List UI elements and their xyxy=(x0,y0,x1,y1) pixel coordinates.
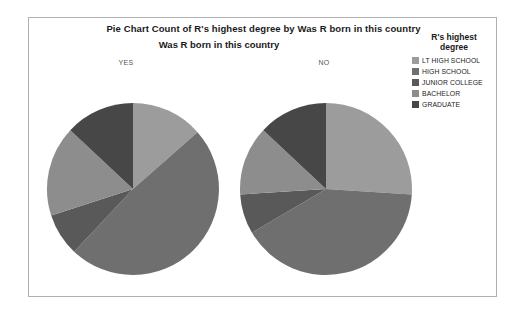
legend-item-label: JUNIOR COLLEGE xyxy=(422,79,483,86)
chart-panel: Pie Chart Count of R's highest degree by… xyxy=(28,17,497,297)
pie-svg-yes xyxy=(45,101,221,277)
pie-svg-no xyxy=(238,101,414,277)
pie-slices-yes xyxy=(47,103,219,275)
legend-item-label: HIGH SCHOOL xyxy=(422,68,471,75)
legend-title-line2: degree xyxy=(410,42,498,52)
legend-item-label: LT HIGH SCHOOL xyxy=(422,57,480,64)
legend-swatch-icon xyxy=(412,90,419,97)
legend-item[interactable]: GRADUATE xyxy=(410,100,498,110)
legend-swatch-icon xyxy=(412,101,419,108)
panel-label-no: NO xyxy=(294,59,354,66)
legend-title: R's highest degree xyxy=(410,32,498,52)
chart-subtitle: Was R born in this country xyxy=(29,39,409,50)
legend-item[interactable]: HIGH SCHOOL xyxy=(410,67,498,77)
legend-title-line1: R's highest xyxy=(410,32,498,42)
legend-item[interactable]: BACHELOR xyxy=(410,89,498,99)
legend-swatch-icon xyxy=(412,79,419,86)
pie-slice[interactable] xyxy=(326,103,412,194)
chart-page: Pie Chart Count of R's highest degree by… xyxy=(0,0,524,319)
pie-slices-no xyxy=(240,103,412,275)
legend-swatch-icon xyxy=(412,57,419,64)
legend-item-label: GRADUATE xyxy=(422,101,460,108)
legend-swatch-icon xyxy=(412,68,419,75)
pie-chart-yes xyxy=(45,101,221,281)
legend-item-label: BACHELOR xyxy=(422,90,460,97)
legend-items: LT HIGH SCHOOLHIGH SCHOOLJUNIOR COLLEGEB… xyxy=(410,56,498,110)
legend-item[interactable]: JUNIOR COLLEGE xyxy=(410,78,498,88)
pie-chart-no xyxy=(238,101,414,281)
panel-label-yes: YES xyxy=(96,59,156,66)
legend-item[interactable]: LT HIGH SCHOOL xyxy=(410,56,498,66)
legend: R's highest degree LT HIGH SCHOOLHIGH SC… xyxy=(410,32,498,111)
